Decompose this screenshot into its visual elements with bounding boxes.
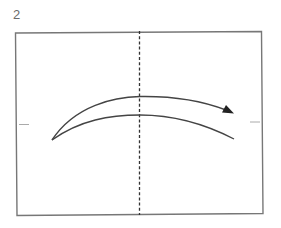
- fold-diagram: [0, 0, 281, 228]
- fold-guide-curve: [52, 115, 234, 140]
- fold-arrow-icon: [52, 96, 226, 140]
- arrowhead-icon: [222, 105, 234, 114]
